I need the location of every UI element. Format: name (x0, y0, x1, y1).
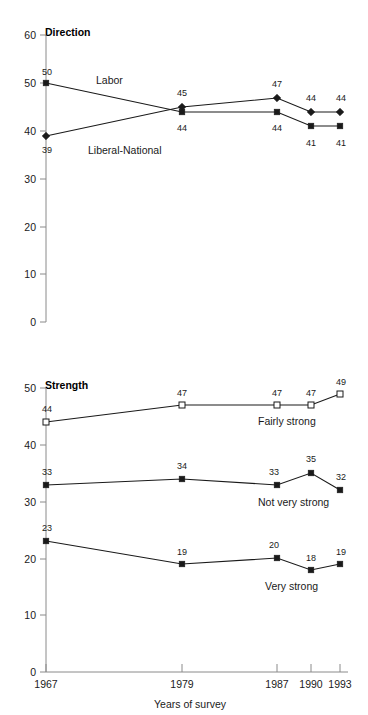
direction-y-tick-labels: 60 50 40 30 20 10 0 (24, 29, 36, 328)
data-point-marker (336, 108, 344, 116)
series-not-very-strong: 33 34 33 35 32 (42, 454, 346, 493)
data-point-label: 32 (336, 472, 346, 482)
data-point-marker (179, 476, 185, 482)
direction-y-ticks (40, 35, 46, 322)
data-point-label: 47 (306, 388, 316, 398)
data-point-label: 44 (42, 404, 52, 414)
series-very-strong: 23 19 20 18 19 (42, 523, 346, 573)
data-point-marker (274, 555, 280, 561)
panel-direction: Direction 60 50 40 30 20 10 0 (24, 26, 346, 328)
data-point-marker (42, 132, 50, 140)
series-label-liberal-national: Liberal-National (88, 144, 162, 156)
data-point-label: 41 (306, 138, 316, 148)
data-point-label: 39 (42, 145, 52, 155)
data-point-marker (179, 402, 185, 408)
data-point-marker (337, 487, 343, 493)
data-point-marker (273, 94, 281, 102)
y-tick-label: 30 (24, 496, 36, 508)
series-label-fairly-strong: Fairly strong (258, 415, 316, 427)
data-point-marker (274, 402, 280, 408)
data-point-marker (274, 109, 280, 115)
data-point-label: 44 (272, 123, 282, 133)
y-tick-label: 10 (24, 268, 36, 280)
y-tick-label: 40 (24, 439, 36, 451)
data-point-marker (43, 419, 49, 425)
x-tick-label: 1993 (328, 678, 352, 690)
y-tick-label: 0 (30, 316, 36, 328)
data-point-label: 41 (336, 138, 346, 148)
data-point-label: 44 (336, 93, 346, 103)
y-tick-label: 20 (24, 553, 36, 565)
y-tick-label: 50 (24, 382, 36, 394)
data-point-label: 47 (272, 79, 282, 89)
x-tick-label: 1990 (299, 678, 323, 690)
two-panel-line-chart: Direction 60 50 40 30 20 10 0 (0, 0, 368, 715)
series-label-labor: Labor (96, 74, 123, 86)
x-tick-label: 1967 (34, 678, 58, 690)
series-labor-line (46, 83, 340, 126)
data-point-label: 44 (177, 123, 187, 133)
data-point-marker (308, 123, 314, 129)
series-label-not-very-strong: Not very strong (258, 496, 329, 508)
panel-strength: Strength 50 40 30 20 10 0 (24, 377, 352, 710)
data-point-marker (337, 561, 343, 567)
data-point-label: 49 (336, 377, 346, 387)
data-point-marker (308, 402, 314, 408)
figure-container: Direction 60 50 40 30 20 10 0 (0, 0, 368, 715)
y-tick-label: 60 (24, 29, 36, 41)
y-tick-label: 30 (24, 173, 36, 185)
data-point-label: 18 (306, 553, 316, 563)
data-point-marker (274, 482, 280, 488)
data-point-marker (43, 538, 49, 544)
x-tick-label: 1987 (265, 678, 289, 690)
data-point-marker (43, 80, 49, 86)
data-point-label: 23 (42, 523, 52, 533)
y-tick-label: 50 (24, 77, 36, 89)
panel-strength-title: Strength (45, 379, 88, 391)
y-tick-label: 10 (24, 609, 36, 621)
x-axis-title: Years of survey (154, 698, 227, 710)
data-point-label: 19 (177, 547, 187, 557)
data-point-label: 33 (42, 467, 52, 477)
data-point-marker (337, 123, 343, 129)
data-point-marker (308, 567, 314, 573)
data-point-label: 20 (269, 540, 279, 550)
strength-y-tick-labels: 50 40 30 20 10 0 (24, 382, 36, 678)
panel-direction-title: Direction (45, 26, 91, 38)
data-point-label: 44 (306, 93, 316, 103)
strength-x-ticks (46, 664, 340, 672)
data-point-label: 33 (269, 467, 279, 477)
data-point-label: 47 (177, 388, 187, 398)
data-point-marker (308, 470, 314, 476)
strength-x-tick-labels: 1967 1979 1987 1990 1993 (34, 678, 352, 690)
data-point-label: 47 (272, 388, 282, 398)
y-tick-label: 0 (30, 666, 36, 678)
y-tick-label: 20 (24, 221, 36, 233)
data-point-marker (43, 482, 49, 488)
data-point-marker (179, 561, 185, 567)
series-very-strong-line (46, 541, 340, 570)
series-not-very-strong-line (46, 473, 340, 490)
data-point-label: 34 (177, 461, 187, 471)
x-tick-label: 1979 (170, 678, 194, 690)
data-point-label: 35 (306, 454, 316, 464)
series-liberal-national-line (46, 98, 340, 136)
y-tick-label: 40 (24, 125, 36, 137)
data-point-marker (307, 108, 315, 116)
data-point-label: 50 (42, 67, 52, 77)
data-point-label: 19 (336, 547, 346, 557)
series-label-very-strong: Very strong (265, 580, 318, 592)
data-point-label: 45 (177, 88, 187, 98)
data-point-marker (337, 391, 343, 397)
